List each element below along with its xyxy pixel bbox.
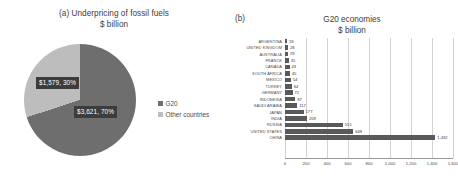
x-tick-label: 400: [324, 161, 331, 167]
bar-value-label: 29: [290, 51, 295, 56]
pie-legend-label: G20: [166, 98, 178, 109]
bar-category-label: MEXICO: [228, 77, 285, 82]
bar-fill[interactable]: [285, 97, 295, 102]
panel-b-subtitle: $ billion: [262, 25, 442, 36]
legend-swatch-icon: [158, 112, 163, 117]
bar-fill[interactable]: [285, 123, 343, 128]
bar-value-label: 177: [306, 109, 313, 114]
bar-fill[interactable]: [285, 78, 291, 83]
panel-b-title-text: G20 economies: [323, 15, 380, 24]
bar-value-label: 43: [292, 64, 297, 69]
bar-value-label: 97: [297, 97, 302, 102]
panel-b-title-block: G20 economies $ billion: [262, 14, 442, 36]
x-tick-label: 1,000: [385, 161, 395, 167]
bar-chart-x-axis-line: [285, 158, 453, 159]
bar-value-label: 72: [295, 90, 300, 95]
bar-fill[interactable]: [285, 45, 288, 50]
bar-value-label: 551: [345, 122, 352, 127]
bar-chart-x-axis-ticks: 02004006008001,0001,2001,4001,600: [285, 161, 453, 173]
bar-value-label: 28: [290, 45, 295, 50]
panel-b-bar-chart: (b) G20 economies $ billion ARGENTINA19U…: [228, 0, 456, 184]
bar-fill[interactable]: [285, 110, 304, 115]
bar-category-label: CANADA: [228, 64, 285, 69]
pie-slices: [24, 44, 136, 156]
bar-fill[interactable]: [285, 84, 292, 89]
pie-legend-label: Other countries: [166, 109, 210, 120]
bar-track: 1,432: [285, 135, 456, 141]
bar-value-label: 19: [289, 39, 294, 44]
bar-category-label: TURKEY: [228, 84, 285, 89]
bar-chart-rows: ARGENTINA19UNITED KINGDOM28AUSTRALIA29FR…: [228, 38, 456, 158]
panel-a-title: (a) Underpricing of fossil fuels: [59, 9, 169, 18]
bar-fill[interactable]: [285, 103, 297, 108]
bar-fill[interactable]: [285, 52, 288, 57]
pie-chart: $1,579, 30% $3,621, 70%: [24, 44, 136, 156]
bar-fill[interactable]: [285, 135, 435, 140]
bar-value-label: 45: [292, 71, 297, 76]
bar-category-label: SOUTH AFRICA: [228, 71, 285, 76]
bar-fill[interactable]: [285, 90, 293, 95]
panel-b-marker: (b): [235, 14, 245, 23]
pie-label-other-countries: $1,579, 30%: [36, 77, 79, 89]
x-tick-label: 1,200: [406, 161, 416, 167]
bar-value-label: 649: [355, 129, 362, 134]
bar-category-label: RUSSIA: [228, 122, 285, 127]
x-tick-label: 1,600: [448, 161, 458, 167]
bar-value-label: 209: [309, 116, 316, 121]
bar-value-label: 1,432: [437, 135, 447, 140]
bar-category-label: SAUDI ARABIA: [228, 103, 285, 108]
bar-category-label: AUSTRALIA: [228, 52, 285, 57]
x-tick-label: 800: [366, 161, 373, 167]
bar-category-label: UNITED STATES: [228, 129, 285, 134]
bar-fill[interactable]: [285, 65, 290, 70]
bar-fill[interactable]: [285, 116, 307, 121]
bar-category-label: ARGENTINA: [228, 39, 285, 44]
pie-label-g20: $3,621, 70%: [74, 106, 117, 118]
bar-fill[interactable]: [285, 71, 290, 76]
bar-category-label: UNITED KINGDOM: [228, 45, 285, 50]
x-tick-label: 600: [345, 161, 352, 167]
bar-category-label: FRANCE: [228, 58, 285, 63]
panel-a-subtitle: $ billion: [0, 19, 228, 30]
legend-swatch-icon: [158, 101, 163, 106]
bar-row: CHINA1,432: [228, 135, 456, 141]
bar-fill[interactable]: [285, 39, 287, 44]
pie-legend-item[interactable]: Other countries: [158, 109, 209, 120]
bar-value-label: 54: [293, 77, 298, 82]
panel-a-pie-chart: (a) Underpricing of fossil fuels $ billi…: [0, 0, 228, 184]
bar-value-label: 35: [291, 58, 296, 63]
bar-category-label: GERMANY: [228, 90, 285, 95]
x-tick-label: 200: [303, 161, 310, 167]
bar-category-label: INDONESIA: [228, 97, 285, 102]
bar-fill[interactable]: [285, 129, 353, 134]
panel-a-title-block: (a) Underpricing of fossil fuels $ billi…: [0, 8, 228, 30]
panel-a-marker: (a): [59, 9, 69, 18]
bar-fill[interactable]: [285, 58, 289, 63]
bar-category-label: JAPAN: [228, 110, 285, 115]
bar-category-label: INDIA: [228, 116, 285, 121]
bar-value-label: 117: [299, 103, 306, 108]
bar-value-label: 64: [294, 84, 299, 89]
pie-legend: G20Other countries: [158, 98, 209, 120]
bar-category-label: CHINA: [228, 135, 285, 140]
pie-legend-item[interactable]: G20: [158, 98, 209, 109]
panel-a-title-text: Underpricing of fossil fuels: [72, 9, 169, 18]
x-tick-label: 1,400: [427, 161, 437, 167]
x-tick-label: 0: [284, 161, 286, 167]
